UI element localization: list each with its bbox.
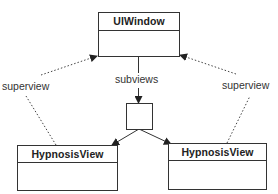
- subviews-label: subviews: [115, 73, 158, 85]
- hypnosis-view-left-node: HypnosisView: [17, 145, 118, 191]
- superview-left-upper-arrow: [41, 56, 97, 75]
- superview-right-upper-arrow: [180, 55, 236, 74]
- superview-left-lower: [26, 96, 56, 145]
- array-to-left-arrow: [112, 129, 139, 145]
- uiwindow-title: UIWindow: [99, 13, 179, 31]
- hypnosis-view-right-title: HypnosisView: [169, 144, 266, 161]
- uiwindow-node: UIWindow: [98, 12, 180, 57]
- hypnosis-view-right-node: HypnosisView: [168, 143, 267, 190]
- superview-right-lower: [227, 96, 250, 143]
- array-to-right-arrow: [139, 129, 171, 144]
- subviews-array-node: [126, 103, 153, 130]
- superview-right-label: superview: [222, 79, 269, 91]
- hypnosis-view-left-title: HypnosisView: [18, 146, 117, 163]
- superview-left-label: superview: [2, 80, 49, 92]
